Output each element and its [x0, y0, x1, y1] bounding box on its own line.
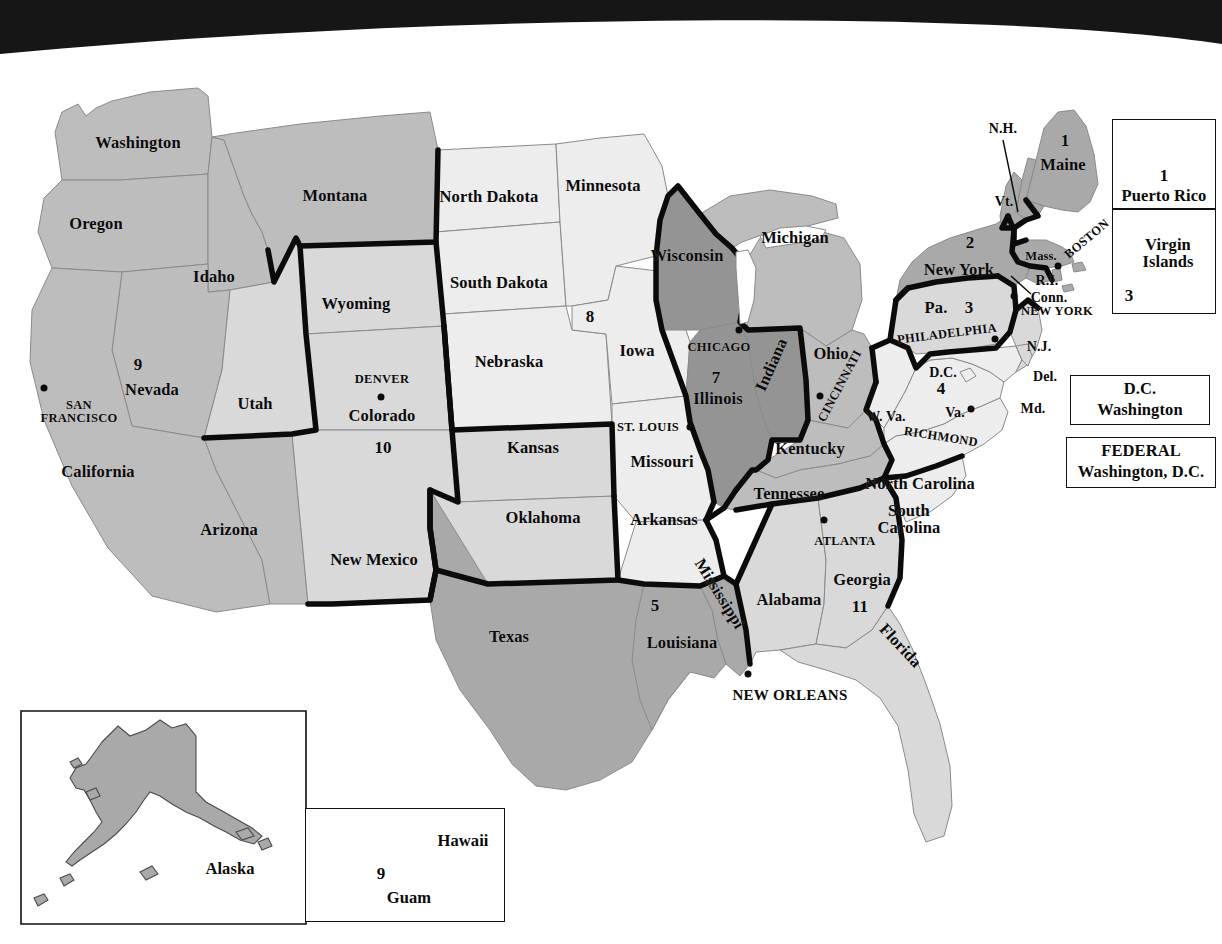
state-label-del: Del.	[1033, 370, 1057, 384]
state-label-oklahoma: Oklahoma	[505, 510, 580, 527]
state-label-illinois: Illinois	[693, 391, 742, 408]
city-label-new-orleans: NEW ORLEANS	[732, 688, 847, 703]
map-figure: WashingtonOregonIdahoMontanaWyomingNevad…	[0, 0, 1222, 944]
state-label-kentucky: Kentucky	[775, 441, 845, 458]
city-label-chicago: CHICAGO	[687, 341, 750, 354]
dc-circuit-line2: Washington	[1097, 402, 1182, 419]
city-dot-boston	[1055, 263, 1062, 270]
circuit-number-8: 8	[586, 308, 595, 325]
city-dot-philadelphia	[992, 336, 999, 343]
circuit-number-4: 4	[937, 380, 946, 397]
hawaii-guam-circuit-number: 9	[377, 865, 386, 882]
state-label-w-va: W. Va.	[866, 410, 905, 424]
virgin-islands-label: Virgin Islands	[1142, 236, 1193, 270]
state-label-washington: Washington	[95, 135, 180, 152]
city-dot-cincinnati	[817, 393, 824, 400]
state-label-new-york: New York	[924, 262, 994, 279]
city-dot-denver	[378, 394, 385, 401]
alaska-label: Alaska	[205, 861, 254, 878]
circuit-number-5: 5	[651, 597, 660, 614]
city-dot-richmond	[968, 406, 975, 413]
alaska-inset-frame	[18, 708, 308, 928]
city-label-san-francisco: SAN FRANCISCO	[40, 399, 117, 425]
puerto-rico-label: Puerto Rico	[1122, 188, 1207, 205]
state-label-arizona: Arizona	[200, 522, 258, 539]
city-label-denver: DENVER	[355, 373, 410, 386]
circuit-number-7: 7	[712, 369, 721, 386]
state-label-mass: Mass.	[1025, 250, 1056, 263]
dc-circuit-line1: D.C.	[1124, 381, 1156, 398]
state-label-oregon: Oregon	[69, 216, 122, 233]
state-label-nevada: Nevada	[125, 382, 179, 399]
guam-label: Guam	[387, 890, 431, 907]
state-label-south-carolina: South Carolina	[878, 502, 941, 536]
state-label-va: Va.	[945, 406, 965, 420]
city-dot-new-orleans	[745, 671, 752, 678]
hawaii-label: Hawaii	[437, 833, 488, 850]
city-label-st-louis: ST. LOUIS	[617, 421, 679, 434]
state-label-missouri: Missouri	[630, 454, 693, 471]
state-label-south-dakota: South Dakota	[450, 275, 548, 292]
state-label-michigan: Michigan	[761, 230, 829, 247]
circuit-number-2: 2	[966, 234, 975, 251]
state-label-nebraska: Nebraska	[475, 354, 544, 371]
state-label-idaho: Idaho	[193, 269, 235, 286]
scan-banner	[0, 0, 1222, 54]
state-label-tennessee: Tennessee	[754, 486, 825, 503]
state-label-md: Md.	[1021, 402, 1046, 416]
state-label-n-h: N.H.	[989, 122, 1017, 136]
state-label-kansas: Kansas	[507, 440, 559, 457]
state-label-north-dakota: North Dakota	[440, 189, 539, 206]
city-dot-atlanta	[821, 517, 828, 524]
state-label-d-c: D.C.	[929, 366, 957, 380]
federal-circuit-line1: FEDERAL	[1101, 443, 1181, 460]
state-label-louisiana: Louisiana	[647, 635, 718, 652]
state-label-r-i: R.I.	[1036, 274, 1059, 288]
state-label-georgia: Georgia	[833, 572, 891, 589]
city-dot-chicago	[736, 327, 743, 334]
state-label-california: California	[61, 464, 134, 481]
state-label-texas: Texas	[489, 629, 529, 646]
state-label-minnesota: Minnesota	[565, 178, 640, 195]
circuit-number-9: 9	[134, 356, 143, 373]
city-dot-st-louis	[687, 424, 694, 431]
puerto-rico-circuit-number: 1	[1160, 167, 1169, 184]
city-label-atlanta: ATLANTA	[814, 535, 875, 548]
state-label-wisconsin: Wisconsin	[650, 248, 723, 265]
state-label-montana: Montana	[303, 188, 368, 205]
circuit-number-11: 11	[852, 598, 868, 615]
city-dot-new-york	[1011, 293, 1018, 300]
state-label-iowa: Iowa	[619, 343, 654, 360]
circuit-number-1: 1	[1061, 132, 1070, 149]
virgin-islands-circuit-number: 3	[1125, 287, 1134, 304]
state-label-north-carolina: North Carolina	[865, 476, 975, 493]
state-label-alabama: Alabama	[757, 592, 822, 609]
state-label-n-j: N.J.	[1027, 340, 1052, 354]
city-label-new-york: NEW YORK	[1021, 305, 1093, 318]
state-label-vt: Vt.	[995, 195, 1014, 209]
state-label-maine: Maine	[1040, 157, 1085, 174]
circuit-number-3: 3	[965, 299, 974, 316]
state-label-colorado: Colorado	[349, 408, 416, 425]
state-label-new-mexico: New Mexico	[330, 552, 418, 569]
state-label-ohio: Ohio	[813, 346, 848, 363]
circuit-number-10: 10	[374, 439, 391, 456]
city-dot-san-francisco	[41, 385, 48, 392]
state-label-arkansas: Arkansas	[630, 512, 698, 529]
federal-circuit-line2: Washington, D.C.	[1078, 464, 1204, 481]
state-label-pa: Pa.	[925, 300, 948, 317]
state-label-wyoming: Wyoming	[322, 296, 391, 313]
state-label-utah: Utah	[237, 396, 272, 413]
